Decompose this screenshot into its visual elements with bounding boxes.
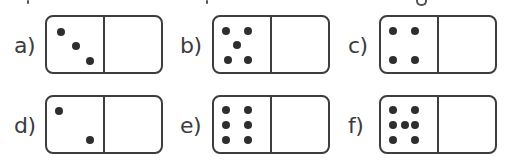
domino-tile <box>45 95 163 154</box>
text-descender-fragment <box>206 0 208 4</box>
domino-right-half-empty[interactable] <box>105 17 161 72</box>
domino-item-e: e) <box>180 95 350 157</box>
domino-item-a: a) <box>14 15 184 77</box>
pip-dot <box>86 57 94 65</box>
domino-tile <box>45 15 163 74</box>
domino-item-d: d) <box>14 95 184 157</box>
domino-left-half <box>47 97 105 152</box>
domino-item-c: c) <box>348 15 512 77</box>
pip-dot <box>411 121 419 129</box>
pip-dot <box>57 28 65 36</box>
text-descender-fragment <box>416 0 427 6</box>
pip-dot <box>411 106 419 114</box>
pip-dot <box>244 56 252 64</box>
domino-right-half-empty[interactable] <box>439 97 495 152</box>
domino-item-b: b) <box>180 15 350 77</box>
pip-dot <box>233 41 241 49</box>
pip-dot <box>411 27 419 35</box>
pip-dot <box>389 56 397 64</box>
domino-tile <box>212 15 330 74</box>
domino-tile <box>379 95 497 154</box>
domino-right-half-empty[interactable] <box>439 17 495 72</box>
pip-dot <box>389 27 397 35</box>
pip-dot <box>244 27 252 35</box>
pip-dot <box>86 136 94 144</box>
domino-left-half <box>47 17 105 72</box>
domino-tile <box>212 95 330 154</box>
domino-left-half <box>214 17 272 72</box>
pip-dot <box>55 107 63 115</box>
pip-dot <box>222 27 230 35</box>
pip-dot <box>222 136 230 144</box>
item-label: c) <box>348 35 368 57</box>
pip-dot <box>389 121 397 129</box>
pip-dot <box>244 136 252 144</box>
pip-dot <box>224 56 232 64</box>
cropped-heading-fragments <box>0 0 512 6</box>
domino-item-f: f) <box>348 95 512 157</box>
item-label: d) <box>14 115 36 137</box>
item-label: f) <box>348 115 363 137</box>
item-label: e) <box>180 115 201 137</box>
domino-left-half <box>381 17 439 72</box>
domino-left-half <box>381 97 439 152</box>
pip-dot <box>244 106 252 114</box>
pip-dot <box>72 42 80 50</box>
pip-dot <box>222 106 230 114</box>
text-descender-fragment <box>27 0 29 4</box>
pip-dot <box>244 121 252 129</box>
pip-dot <box>389 136 397 144</box>
item-label: b) <box>180 35 202 57</box>
pip-dot <box>401 121 409 129</box>
domino-right-half-empty[interactable] <box>272 17 328 72</box>
domino-left-half <box>214 97 272 152</box>
domino-tile <box>379 15 497 74</box>
pip-dot <box>389 106 397 114</box>
pip-dot <box>411 136 419 144</box>
domino-right-half-empty[interactable] <box>272 97 328 152</box>
pip-dot <box>411 56 419 64</box>
item-label: a) <box>14 35 35 57</box>
pip-dot <box>222 121 230 129</box>
domino-right-half-empty[interactable] <box>105 97 161 152</box>
